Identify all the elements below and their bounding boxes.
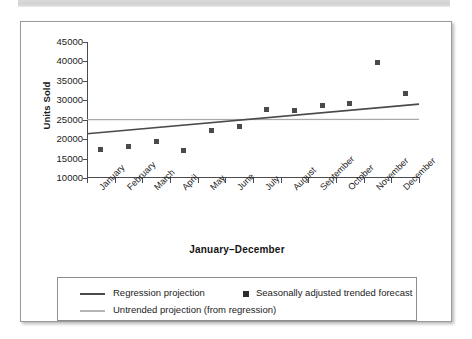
y-tick-label: 30000: [39, 95, 83, 105]
plot-svg: [87, 42, 419, 178]
y-tick-label: 40000: [39, 56, 83, 66]
legend-item-forecast: Seasonally adjusted trended forecast: [243, 287, 423, 301]
data-point-marker: [154, 139, 159, 144]
legend-square-swatch-forecast: [243, 291, 249, 297]
data-point-marker: [375, 60, 380, 65]
chart-page: Units Sold 45000400003500030000250002000…: [0, 0, 472, 339]
y-tick-label: 10000: [39, 173, 83, 183]
data-point-marker: [181, 148, 186, 153]
y-tick-label: 35000: [39, 76, 83, 86]
chart-card: Units Sold 45000400003500030000250002000…: [20, 21, 452, 322]
chart-legend: Regression projection Seasonally adjuste…: [57, 277, 417, 321]
y-tick-mark: [83, 139, 88, 140]
y-tick-label: 15000: [39, 154, 83, 164]
data-point-marker: [237, 124, 242, 129]
data-point-marker: [403, 91, 408, 96]
data-point-marker: [209, 128, 214, 133]
chart-area: Units Sold 45000400003500030000250002000…: [21, 22, 453, 323]
legend-label-regression: Regression projection: [113, 286, 205, 300]
x-tick-mark: [87, 178, 88, 183]
y-tick-label: 20000: [39, 134, 83, 144]
data-point-marker: [320, 103, 325, 108]
x-axis-title: January–December: [21, 244, 453, 255]
data-point-marker: [292, 108, 297, 113]
y-tick-mark: [83, 159, 88, 160]
legend-label-forecast: Seasonally adjusted trended forecast: [256, 286, 412, 300]
y-tick-label: 45000: [39, 37, 83, 47]
data-point-marker: [347, 101, 352, 106]
y-tick-mark: [83, 100, 88, 101]
y-tick-mark: [83, 61, 88, 62]
legend-line-swatch-regression: [80, 293, 105, 295]
legend-item-untrended: Untrended projection (from regression): [80, 304, 340, 318]
legend-line-swatch-untrended: [80, 310, 105, 312]
y-tick-mark: [83, 81, 88, 82]
y-tick-label: 25000: [39, 115, 83, 125]
legend-item-regression: Regression projection: [80, 287, 230, 301]
page-top-band: [18, 0, 450, 7]
data-point-marker: [264, 107, 269, 112]
legend-label-untrended: Untrended projection (from regression): [113, 303, 276, 317]
data-point-marker: [126, 144, 131, 149]
y-axis-tick-labels: 4500040000350003000025000200001500010000: [35, 22, 83, 202]
y-tick-mark: [83, 120, 88, 121]
y-tick-mark: [83, 42, 88, 43]
data-point-marker: [98, 147, 103, 152]
